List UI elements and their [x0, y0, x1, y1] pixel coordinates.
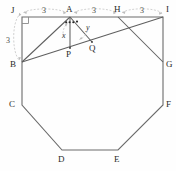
angle-leader-arrowheads	[65, 23, 83, 39]
angle-label-x: x	[62, 32, 66, 40]
angle-dot-2	[69, 21, 71, 23]
angle-dot-3	[72, 21, 74, 23]
right-angle-mark-J	[22, 17, 29, 24]
dimension-label-J-A: 3	[42, 7, 46, 15]
point-label-P: P	[66, 50, 71, 59]
angle-leaders	[63, 23, 88, 39]
arrowhead-left-JA	[24, 11, 27, 14]
vertex-label-E: E	[114, 155, 120, 164]
vertex-label-F: F	[166, 100, 171, 109]
geometry-figure: J A H I B G C F D E P Q 3 3 3 3 x y	[0, 0, 176, 171]
arrowhead-left-AH	[74, 11, 77, 14]
dimension-label-A-H: 3	[92, 7, 96, 15]
angle-dot-4	[76, 21, 78, 23]
dimension-label-H-I: 3	[140, 7, 144, 15]
arrowhead-left-HI	[122, 11, 125, 14]
arrowhead-top-JB	[19, 13, 22, 16]
arrowhead-bottom-JB	[18, 57, 21, 60]
angle-label-y: y	[86, 24, 90, 32]
vertex-label-I: I	[166, 5, 169, 14]
construction-lines	[22, 17, 163, 62]
angle-dot-1	[65, 21, 67, 23]
guide-arc-J-B	[14, 16, 19, 60]
vertex-label-J: J	[11, 6, 15, 15]
angle-tick-dots	[65, 21, 78, 24]
vertex-label-H: H	[114, 5, 121, 14]
vertex-label-C: C	[9, 100, 15, 109]
dimension-guides	[14, 9, 162, 60]
decagon-outline	[22, 17, 163, 150]
dimension-label-J-B: 3	[6, 37, 10, 45]
point-label-Q: Q	[89, 44, 96, 53]
vertex-label-B: B	[10, 60, 16, 69]
arrowhead-y	[79, 37, 82, 40]
line-B-I	[22, 17, 163, 62]
vertex-label-G: G	[166, 60, 173, 69]
vertex-label-D: D	[58, 155, 65, 164]
vertex-label-A: A	[66, 5, 73, 14]
